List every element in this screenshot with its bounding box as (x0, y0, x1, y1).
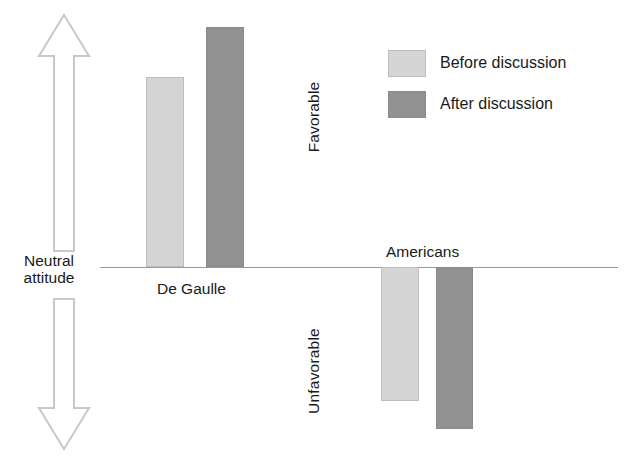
axis-label-unfavorable-text: Unfavorable (305, 328, 323, 414)
bar-degaulle-after-discussion (206, 27, 244, 267)
favorable-arrow-up-icon (36, 12, 92, 254)
chart-legend: Before discussion After discussion (388, 48, 566, 130)
axis-label-favorable-text: Favorable (305, 82, 323, 153)
legend-swatch-after-discussion (388, 91, 426, 118)
axis-origin-label: Neutral attitude (0, 253, 98, 286)
legend-item-after-discussion: After discussion (388, 89, 566, 119)
bar-americans-after-discussion (436, 267, 473, 429)
group-label-americans: Americans (386, 243, 459, 261)
legend-label-after-discussion: After discussion (440, 95, 553, 113)
axis-origin-label-line2: attitude (0, 270, 98, 287)
legend-label-before-discussion: Before discussion (440, 54, 566, 72)
group-label-de-gaulle: De Gaulle (157, 280, 226, 298)
attitude-bar-chart: Favorable Unfavorable Neutral attitude D… (0, 0, 628, 458)
bar-degaulle-before-discussion (146, 77, 184, 267)
axis-label-unfavorable: Unfavorable (0, 362, 628, 380)
legend-swatch-before-discussion (388, 50, 426, 77)
bar-americans-before-discussion (381, 267, 419, 401)
axis-origin-label-line1: Neutral (24, 252, 74, 269)
neutral-axis-line (100, 267, 618, 268)
legend-item-before-discussion: Before discussion (388, 48, 566, 78)
